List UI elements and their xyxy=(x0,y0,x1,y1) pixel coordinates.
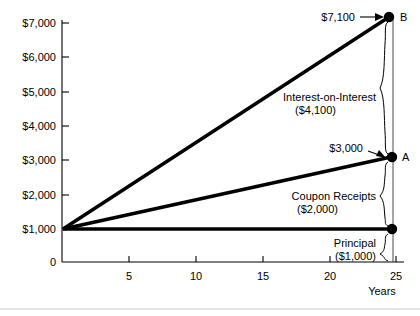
endpoint-dot-a xyxy=(387,152,397,162)
y-axis-label-3000: $3,000 xyxy=(22,154,56,166)
y-axis-label-6000: $6,000 xyxy=(22,51,56,63)
chart-background xyxy=(0,0,420,316)
annot-label-interest-on-interest: Interest-on-Interest xyxy=(283,91,376,103)
annot-amount-principal: ($1,000) xyxy=(335,250,376,262)
chart-container: $7,000 $6,000 $5,000 $4,000 $3,000 $2,00… xyxy=(0,0,420,316)
y-axis-label-4000: $4,000 xyxy=(22,120,56,132)
y-axis-label-0: 0 xyxy=(50,256,56,268)
x-axis-label-25: 25 xyxy=(390,270,402,282)
annot-amount-interest-on-interest: ($4,100) xyxy=(295,104,336,116)
y-axis-label-1000: $1,000 xyxy=(22,223,56,235)
endpoint-dot-b xyxy=(384,12,394,22)
value-label-7100: $7,100 xyxy=(321,11,355,23)
point-label-a: A xyxy=(402,151,410,163)
annot-label-principal: Principal xyxy=(334,237,376,249)
value-label-3000: $3,000 xyxy=(329,142,363,154)
endpoint-dot-principal xyxy=(387,224,397,234)
point-label-b: B xyxy=(400,11,407,23)
y-axis-label-5000: $5,000 xyxy=(22,86,56,98)
x-axis-label-20: 20 xyxy=(324,270,336,282)
y-axis-label-2000: $2,000 xyxy=(22,189,56,201)
x-axis-label-5: 5 xyxy=(126,270,132,282)
annot-label-coupon-receipts: Coupon Receipts xyxy=(292,190,377,202)
annot-amount-coupon-receipts: ($2,000) xyxy=(297,203,338,215)
x-axis-label-10: 10 xyxy=(190,270,202,282)
bond-growth-chart: $7,000 $6,000 $5,000 $4,000 $3,000 $2,00… xyxy=(0,0,420,316)
x-axis-title: Years xyxy=(368,285,396,297)
x-axis-label-15: 15 xyxy=(257,270,269,282)
y-axis-label-7000: $7,000 xyxy=(22,17,56,29)
